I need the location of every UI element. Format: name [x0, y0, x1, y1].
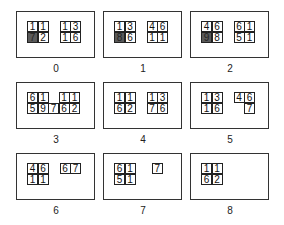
number-cell: 6 [38, 163, 49, 174]
number-cell: 6 [201, 174, 212, 185]
number-cell: 4 [201, 21, 212, 32]
number-cell: 1 [125, 163, 136, 174]
panel-label: 5 [190, 134, 270, 145]
number-cell: 1 [60, 32, 71, 43]
number-cell: 6 [212, 21, 223, 32]
number-cell: 7 [147, 103, 158, 114]
state-panel-8: 1162 [190, 153, 269, 200]
number-cell: 7 [70, 163, 81, 174]
number-cell: 1 [38, 21, 49, 32]
number-cell: 7 [244, 103, 255, 114]
number-cell: 1 [114, 21, 125, 32]
number-cell: 6 [125, 32, 136, 43]
number-cell: 1 [201, 92, 212, 103]
number-cell: 1 [147, 32, 158, 43]
panel-label: 2 [190, 63, 270, 74]
number-cell: 1 [201, 163, 212, 174]
number-cell: 6 [157, 21, 168, 32]
number-cell: 1 [244, 21, 255, 32]
number-cell: 6 [114, 163, 125, 174]
number-cell: 4 [234, 92, 245, 103]
number-cell: 1 [212, 163, 223, 174]
number-cell: 2 [212, 174, 223, 185]
number-cell: 1 [125, 174, 136, 185]
panel-label: 0 [16, 63, 96, 74]
number-cell: 6 [234, 21, 245, 32]
number-cell: 6 [157, 103, 168, 114]
state-panel-3: 611159762 [16, 82, 95, 129]
state-panel-2: 46986151 [190, 11, 269, 58]
number-cell: 7 [152, 163, 163, 174]
number-cell: 1 [147, 92, 158, 103]
state-panel-0: 11721316 [16, 11, 95, 58]
number-cell: 9 [38, 103, 49, 114]
panel-label: 7 [103, 205, 183, 216]
number-cell: 1 [114, 92, 125, 103]
number-cell: 5 [114, 174, 125, 185]
number-cell: 4 [147, 21, 158, 32]
number-cell: 1 [157, 32, 168, 43]
number-cell: 6 [60, 163, 71, 174]
number-cell: 6 [59, 103, 70, 114]
highlighted-cell: 9 [201, 32, 212, 43]
number-cell: 3 [70, 21, 81, 32]
number-cell: 1 [60, 21, 71, 32]
number-cell: 1 [38, 92, 49, 103]
number-cell: 1 [27, 21, 38, 32]
number-cell: 1 [27, 174, 38, 185]
number-cell: 4 [27, 163, 38, 174]
number-cell: 3 [125, 21, 136, 32]
panel-label: 4 [103, 134, 183, 145]
number-cell: 8 [212, 32, 223, 43]
number-cell: 6 [244, 92, 255, 103]
number-cell: 2 [125, 103, 136, 114]
number-cell: 7 [48, 103, 59, 114]
panel-label: 8 [190, 205, 270, 216]
number-cell: 6 [70, 32, 81, 43]
panel-label: 3 [16, 134, 96, 145]
highlighted-cell: 8 [114, 32, 125, 43]
number-cell: 1 [125, 92, 136, 103]
highlighted-cell: 7 [27, 32, 38, 43]
number-cell: 5 [234, 32, 245, 43]
number-cell: 6 [114, 103, 125, 114]
state-panel-5: 1316467 [190, 82, 269, 129]
number-cell: 6 [27, 92, 38, 103]
state-panel-4: 11621376 [103, 82, 182, 129]
state-panel-1: 13864611 [103, 11, 182, 58]
number-cell: 1 [244, 32, 255, 43]
number-cell: 3 [157, 92, 168, 103]
number-cell: 1 [69, 92, 80, 103]
number-cell: 5 [27, 103, 38, 114]
number-cell: 2 [69, 103, 80, 114]
number-cell: 1 [201, 103, 212, 114]
number-cell: 1 [59, 92, 70, 103]
number-cell: 2 [38, 32, 49, 43]
panel-label: 6 [16, 205, 96, 216]
panel-label: 1 [103, 63, 183, 74]
number-cell: 3 [212, 92, 223, 103]
number-cell: 6 [212, 103, 223, 114]
number-cell: 1 [38, 174, 49, 185]
state-panel-7: 61517 [103, 153, 182, 200]
state-panel-6: 461167 [16, 153, 95, 200]
